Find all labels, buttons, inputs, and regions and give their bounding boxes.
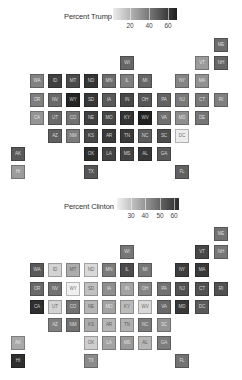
- state-tile-md: MD: [175, 111, 189, 125]
- state-tile-mo: MO: [102, 300, 116, 314]
- clinton-tile-map: Percent Clinton 30405060 MEWIVTNHWAIDMTN…: [0, 189, 242, 379]
- state-tile-az: AZ: [48, 129, 62, 143]
- state-tile-tx: TX: [84, 165, 98, 179]
- color-scale-bar: [117, 198, 179, 210]
- state-tile-al: AL: [138, 336, 152, 350]
- state-tile-dc: DC: [175, 129, 189, 143]
- state-tile-ks: KS: [84, 318, 98, 332]
- legend-tick-label: 60: [164, 22, 171, 29]
- state-tile-me: ME: [214, 38, 228, 52]
- state-tile-ne: NE: [84, 111, 98, 125]
- state-tile-va: VA: [157, 300, 171, 314]
- state-tile-co: CO: [66, 111, 80, 125]
- legend-tick-mark: [145, 198, 146, 210]
- state-tile-nm: NM: [66, 318, 80, 332]
- state-tile-ok: OK: [84, 336, 98, 350]
- legend-tick-label: 50: [156, 212, 163, 219]
- state-tile-ne: NE: [84, 300, 98, 314]
- legend-tick-label: 40: [145, 22, 152, 29]
- trump-tile-map: Percent Trump 204060 MEWIVTNHWAIDMTNDMNI…: [0, 0, 242, 190]
- state-tile-la: LA: [102, 147, 116, 161]
- state-tile-ga: GA: [157, 147, 171, 161]
- state-tile-hi: HI: [11, 354, 25, 368]
- state-tile-fl: FL: [175, 354, 189, 368]
- state-tile-co: CO: [66, 300, 80, 314]
- state-tile-az: AZ: [48, 318, 62, 332]
- state-tile-ct: CT: [195, 93, 209, 107]
- state-tile-oh: OH: [138, 93, 152, 107]
- state-tile-mi: MI: [138, 74, 152, 88]
- state-tile-in: IN: [120, 93, 134, 107]
- state-tile-vt: VT: [195, 56, 209, 70]
- legend-tick-label: 40: [141, 212, 148, 219]
- legend-tick-mark: [168, 8, 169, 20]
- state-tile-ms: MS: [120, 147, 134, 161]
- state-tile-nh: NH: [214, 56, 228, 70]
- state-tile-wv: WV: [138, 111, 152, 125]
- state-tile-sc: SC: [157, 318, 171, 332]
- state-tile-in: IN: [120, 282, 134, 296]
- state-tile-wi: WI: [120, 245, 134, 259]
- legend-tick-label: 30: [127, 212, 134, 219]
- state-tile-ny: NY: [175, 74, 189, 88]
- state-tile-sd: SD: [84, 93, 98, 107]
- state-tile-il: IL: [120, 263, 134, 277]
- state-tile-mi: MI: [138, 263, 152, 277]
- state-tile-sd: SD: [84, 282, 98, 296]
- state-tile-or: OR: [30, 93, 44, 107]
- state-tile-al: AL: [138, 147, 152, 161]
- state-tile-ky: KY: [120, 111, 134, 125]
- state-tile-tx: TX: [84, 354, 98, 368]
- state-tile-nv: NV: [48, 282, 62, 296]
- state-tile-ar: AR: [102, 318, 116, 332]
- state-tile-nj: NJ: [175, 93, 189, 107]
- state-tile-ky: KY: [120, 300, 134, 314]
- state-tile-ri: RI: [214, 93, 228, 107]
- state-tile-wi: WI: [120, 56, 134, 70]
- state-tile-il: IL: [120, 74, 134, 88]
- state-tile-ny: NY: [175, 263, 189, 277]
- state-tile-ut: UT: [48, 300, 62, 314]
- state-tile-tn: TN: [120, 129, 134, 143]
- state-tile-mo: MO: [102, 111, 116, 125]
- state-tile-vt: VT: [195, 245, 209, 259]
- legend-tick-mark: [160, 198, 161, 210]
- state-tile-ri: RI: [214, 282, 228, 296]
- state-tile-ks: KS: [84, 129, 98, 143]
- state-tile-sc: SC: [157, 129, 171, 143]
- state-tile-id: ID: [48, 74, 62, 88]
- state-tile-oh: OH: [138, 282, 152, 296]
- state-tile-ar: AR: [102, 129, 116, 143]
- state-tile-dc: DC: [195, 300, 209, 314]
- state-tile-ms: MS: [120, 336, 134, 350]
- state-tile-ia: IA: [102, 282, 116, 296]
- legend-tick-label: 60: [170, 212, 177, 219]
- state-tile-wa: WA: [30, 74, 44, 88]
- state-tile-pa: PA: [157, 93, 171, 107]
- state-tile-ak: AK: [11, 147, 25, 161]
- state-tile-ma: MA: [195, 74, 209, 88]
- state-tile-va: VA: [157, 111, 171, 125]
- state-tile-wy: WY: [66, 282, 80, 296]
- state-tile-fl: FL: [175, 165, 189, 179]
- state-tile-pa: PA: [157, 282, 171, 296]
- legend-title: Percent Clinton: [64, 202, 114, 211]
- state-tile-mn: MN: [102, 74, 116, 88]
- legend-tick-mark: [131, 198, 132, 210]
- state-tile-wv: WV: [138, 300, 152, 314]
- state-tile-ga: GA: [157, 336, 171, 350]
- state-tile-la: LA: [102, 336, 116, 350]
- legend-tick-mark: [130, 8, 131, 20]
- state-tile-ia: IA: [102, 93, 116, 107]
- state-tile-mn: MN: [102, 263, 116, 277]
- state-tile-ok: OK: [84, 147, 98, 161]
- state-tile-me: ME: [214, 227, 228, 241]
- state-tile-md: MD: [175, 300, 189, 314]
- state-tile-ak: AK: [11, 336, 25, 350]
- state-tile-nc: NC: [138, 318, 152, 332]
- state-tile-nj: NJ: [175, 282, 189, 296]
- state-tile-mt: MT: [66, 74, 80, 88]
- state-tile-nv: NV: [48, 93, 62, 107]
- legend-tick-mark: [174, 198, 175, 210]
- state-tile-hi: HI: [11, 165, 25, 179]
